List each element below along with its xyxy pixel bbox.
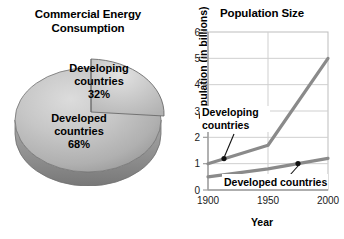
pie-label-developed-line-2: countries xyxy=(31,125,127,138)
y-tick-4: 4 xyxy=(194,79,200,90)
series-label-developing-line-1: Developing xyxy=(202,106,259,118)
pie-chart-panel: Commercial Energy Consumption xyxy=(0,0,176,239)
pie-chart-graphic: Developing countries 32% Developed count… xyxy=(7,46,169,186)
pie-label-developed: Developed countries 68% xyxy=(31,112,127,151)
y-tick-3: 3 xyxy=(194,106,200,117)
x-tick-2000: 2000 xyxy=(317,195,340,206)
y-tick-2: 2 xyxy=(194,132,200,143)
series-label-developing-line-2: countries xyxy=(202,119,249,131)
y-tick-0: 0 xyxy=(194,185,200,196)
x-tick-1950: 1950 xyxy=(257,195,280,206)
pie-label-developing-line-1: Developing xyxy=(53,62,145,75)
x-tick-1900: 1900 xyxy=(197,195,220,206)
pie-title-line-1: Commercial Energy xyxy=(0,7,176,21)
pie-label-developed-line-1: Developed xyxy=(31,112,127,125)
pie-label-developing: Developing countries 32% xyxy=(53,62,145,101)
pie-value-developed: 68% xyxy=(31,138,127,151)
y-tick-6: 6 xyxy=(194,27,200,38)
figure-root: Commercial Energy Consumption xyxy=(0,0,344,239)
line-chart-panel: Population Size Population (in billions)… xyxy=(176,0,344,239)
line-chart-svg: 0 1 2 3 4 5 6 1900 1950 2000 Developing … xyxy=(176,22,344,216)
marker-developed xyxy=(295,161,300,166)
pie-chart-title: Commercial Energy Consumption xyxy=(0,7,176,35)
pie-title-line-2: Consumption xyxy=(0,21,176,35)
pie-value-developing: 32% xyxy=(53,88,145,101)
y-tick-1: 1 xyxy=(194,158,200,169)
x-axis-title: Year xyxy=(182,216,342,228)
series-label-developed: Developed countries xyxy=(224,176,327,188)
marker-developing xyxy=(221,156,226,161)
y-tick-5: 5 xyxy=(194,53,200,64)
x-tick-labels: 1900 1950 2000 xyxy=(197,195,340,206)
y-tick-labels: 0 1 2 3 4 5 6 xyxy=(194,27,200,196)
pie-label-developing-line-2: countries xyxy=(53,75,145,88)
